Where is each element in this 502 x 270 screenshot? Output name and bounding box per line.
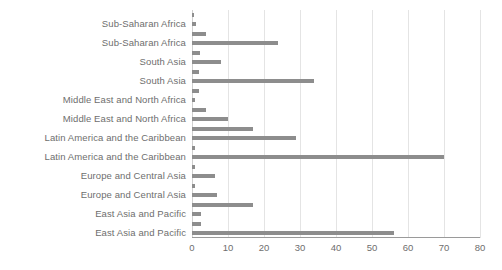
category-label: East Asia and Pacific: [0, 208, 186, 219]
x-tick-label-30: 30: [288, 242, 312, 254]
category-label: Middle East and North Africa: [0, 113, 186, 124]
bar-row: [192, 67, 480, 77]
bar-row: [192, 162, 480, 172]
bar[interactable]: [192, 60, 221, 64]
bar[interactable]: [192, 155, 444, 159]
bar-row: [192, 172, 480, 182]
category-label: Europe and Central Asia: [0, 189, 186, 200]
x-tick-label-20: 20: [252, 242, 276, 254]
bar-row: [192, 153, 480, 163]
bar-row: [192, 39, 480, 49]
bar-row: [192, 181, 480, 191]
bar-row: [192, 105, 480, 115]
bar[interactable]: [192, 51, 200, 55]
bar[interactable]: [192, 41, 278, 45]
category-label: Latin America and the Caribbean: [0, 132, 186, 143]
bar-row: [192, 20, 480, 30]
x-tick-label-60: 60: [396, 242, 420, 254]
bar[interactable]: [192, 193, 217, 197]
bar-row: [192, 115, 480, 125]
bar-row: [192, 29, 480, 39]
bar[interactable]: [192, 203, 253, 207]
bar[interactable]: [192, 89, 199, 93]
bar[interactable]: [192, 79, 314, 83]
category-axis-labels: Sub-Saharan AfricaSub-Saharan AfricaSout…: [0, 10, 186, 238]
category-label: South Asia: [0, 75, 186, 86]
bar-row: [192, 48, 480, 58]
bar[interactable]: [192, 70, 199, 74]
bar[interactable]: [192, 117, 228, 121]
category-label: Sub-Saharan Africa: [0, 18, 186, 29]
category-label: Latin America and the Caribbean: [0, 151, 186, 162]
bar[interactable]: [192, 184, 195, 188]
category-label: Middle East and North Africa: [0, 94, 186, 105]
bar-row: [192, 77, 480, 87]
x-tick-label-40: 40: [324, 242, 348, 254]
bar-row: [192, 210, 480, 220]
x-axis-line: [192, 237, 480, 238]
bar-series: [192, 10, 480, 238]
bar[interactable]: [192, 13, 194, 17]
bar-row: [192, 86, 480, 96]
bar-row: [192, 134, 480, 144]
bar[interactable]: [192, 108, 206, 112]
bar[interactable]: [192, 32, 206, 36]
bar[interactable]: [192, 212, 201, 216]
bar-row: [192, 10, 480, 20]
category-label: Sub-Saharan Africa: [0, 37, 186, 48]
bar-row: [192, 219, 480, 229]
bar-row: [192, 200, 480, 210]
bar-row: [192, 124, 480, 134]
category-label: South Asia: [0, 56, 186, 67]
bar-row: [192, 58, 480, 68]
x-tick-label-10: 10: [216, 242, 240, 254]
x-tick-label-0: 0: [180, 242, 204, 254]
category-label: East Asia and Pacific: [0, 227, 186, 238]
x-tick-label-70: 70: [432, 242, 456, 254]
bar-row: [192, 143, 480, 153]
bar[interactable]: [192, 98, 195, 102]
bar-row: [192, 96, 480, 106]
bar-chart: Sub-Saharan AfricaSub-Saharan AfricaSout…: [0, 0, 502, 270]
bar[interactable]: [192, 231, 394, 235]
bar[interactable]: [192, 174, 215, 178]
bar[interactable]: [192, 146, 195, 150]
bar[interactable]: [192, 222, 201, 226]
x-tick-label-50: 50: [360, 242, 384, 254]
gridline-80: [480, 10, 481, 238]
bar-row: [192, 191, 480, 201]
bar[interactable]: [192, 22, 196, 26]
bar[interactable]: [192, 136, 296, 140]
value-axis-tick-labels: 01020304050607080: [192, 242, 480, 258]
plot-area: [192, 10, 480, 238]
bar[interactable]: [192, 127, 253, 131]
bar[interactable]: [192, 165, 195, 169]
category-label: Europe and Central Asia: [0, 170, 186, 181]
x-tick-label-80: 80: [468, 242, 492, 254]
